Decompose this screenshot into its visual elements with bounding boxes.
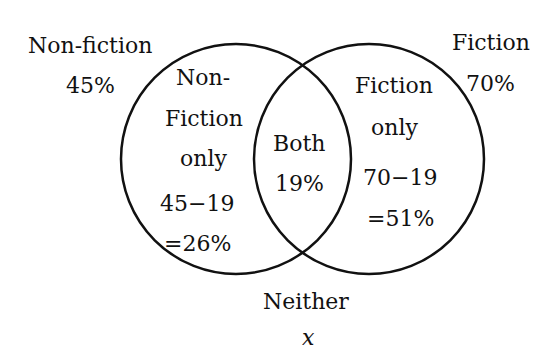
fiction-only-calc: 70−19 [363,167,437,189]
non-fiction-only-result: =26% [164,233,231,255]
neither-label: Neither [263,291,349,313]
non-fiction-only-line3: only [180,148,227,170]
neither-value: x [302,327,314,349]
non-fiction-circle [121,44,351,274]
fiction-total: 70% [466,73,515,95]
fiction-only-line2: only [371,117,418,139]
non-fiction-only-line2: Fiction [165,108,243,130]
non-fiction-only-calc: 45−19 [160,193,234,215]
non-fiction-set-label: Non-fiction [28,35,152,57]
fiction-only-line1: Fiction [355,75,433,97]
both-value: 19% [275,173,324,195]
both-label: Both [273,133,325,155]
non-fiction-total: 45% [66,75,115,97]
fiction-only-result: =51% [367,208,434,230]
fiction-set-label: Fiction [452,32,530,54]
non-fiction-only-line1: Non- [176,67,230,89]
